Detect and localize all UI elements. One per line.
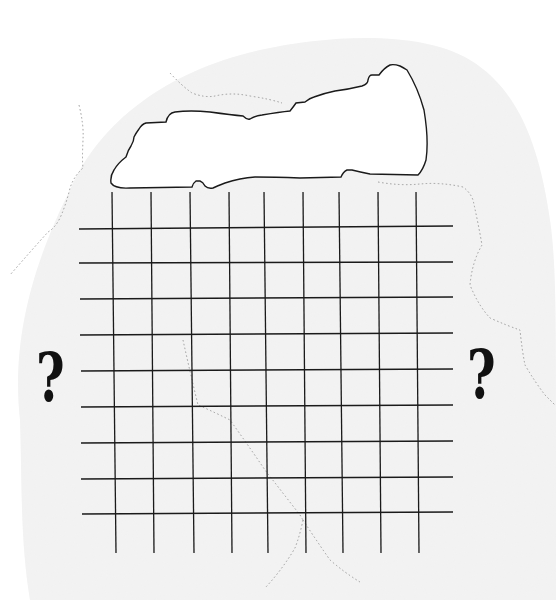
diagram-canvas: [0, 0, 556, 600]
grid-hline: [79, 262, 453, 263]
left-question-mark: ?: [36, 343, 65, 411]
right-question-mark: ?: [467, 340, 496, 408]
